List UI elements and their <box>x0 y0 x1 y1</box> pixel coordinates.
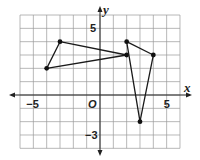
vertex-point <box>151 53 156 58</box>
vertex-point <box>44 66 49 71</box>
y-axis-up-arrow-icon <box>98 6 103 12</box>
y-tick-label: −3 <box>85 129 98 141</box>
y-axis-label: y <box>101 2 109 17</box>
coordinate-plane: x y O −555−3 <box>0 0 200 160</box>
origin-label: O <box>88 98 97 110</box>
vertex-point <box>138 119 143 124</box>
labels: x y O <box>88 2 191 110</box>
y-tick-label: 5 <box>90 22 96 34</box>
vertex-point <box>58 39 63 44</box>
x-tick-label: 5 <box>164 98 170 110</box>
x-tick-label: −5 <box>26 98 39 110</box>
x-axis-left-arrow-icon <box>9 93 15 98</box>
y-axis-down-arrow-icon <box>98 150 103 156</box>
vertex-point <box>124 39 129 44</box>
x-axis-label: x <box>183 80 191 95</box>
